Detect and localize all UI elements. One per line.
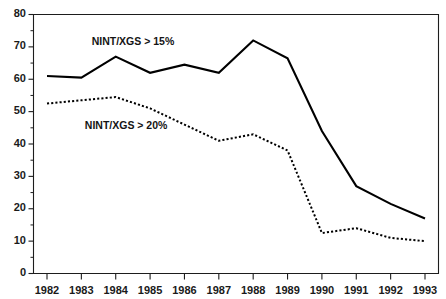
y-tick-label: 70	[0, 39, 26, 51]
y-tick-label: 80	[0, 7, 26, 19]
y-tick-label: 40	[0, 137, 26, 149]
series-annotation-1: NINT/XGS > 15%	[92, 35, 175, 47]
line-chart-plot	[0, 0, 446, 299]
y-tick-label: 10	[0, 234, 26, 246]
y-tick-label: 50	[0, 104, 26, 116]
y-tick-label: 20	[0, 201, 26, 213]
chart-figure: 80706050403020100 1982198319841985198619…	[0, 0, 446, 299]
data-series-group	[47, 40, 425, 241]
y-tick-label: 60	[0, 72, 26, 84]
x-tick-label: 1993	[405, 284, 445, 296]
x-axis-ticks	[47, 274, 425, 280]
y-tick-label: 30	[0, 169, 26, 181]
y-tick-label: 0	[0, 266, 26, 278]
series-annotation-2: NINT/XGS > 20%	[85, 119, 168, 131]
y-axis-ticks	[29, 15, 34, 274]
